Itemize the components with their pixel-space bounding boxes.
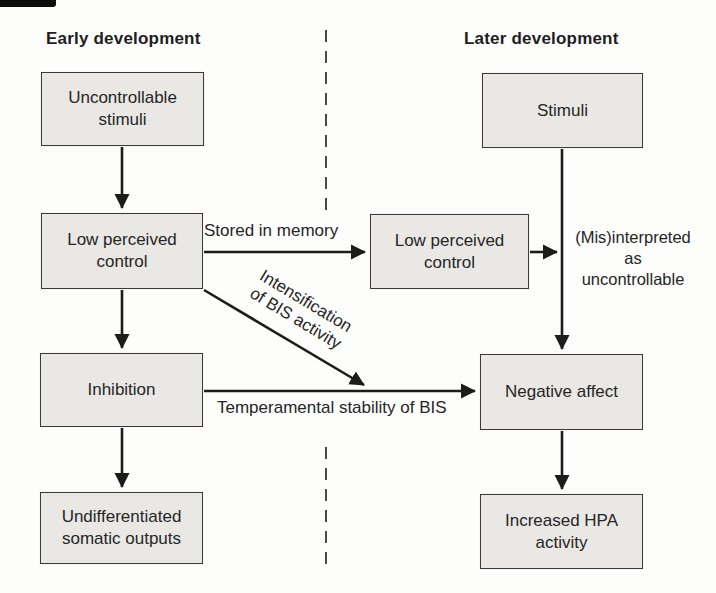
label-misinterpreted-as-uncontrollable: (Mis)interpreted as uncontrollable <box>566 227 700 290</box>
scan-corner-mark <box>0 0 56 7</box>
box-uncontrollable-stimuli: Uncontrollable stimuli <box>41 72 204 146</box>
box-inhibition: Inhibition <box>40 353 203 427</box>
box-undifferentiated-somatic-outputs: Undifferentiated somatic outputs <box>40 492 203 564</box>
box-stimuli: Stimuli <box>482 73 643 148</box>
label-temperamental-stability: Temperamental stability of BIS <box>217 398 447 418</box>
box-increased-hpa-activity: Increased HPA activity <box>480 494 643 569</box>
label-intensification-of-bis: Intensification of BIS activity <box>225 254 375 367</box>
box-low-perceived-control-early: Low perceived control <box>41 213 203 289</box>
box-low-perceived-control-later: Low perceived control <box>370 214 529 289</box>
label-stored-in-memory: Stored in memory <box>204 221 338 241</box>
early-development-header: Early development <box>46 29 201 49</box>
box-negative-affect: Negative affect <box>480 354 643 430</box>
later-development-header: Later development <box>464 29 619 49</box>
